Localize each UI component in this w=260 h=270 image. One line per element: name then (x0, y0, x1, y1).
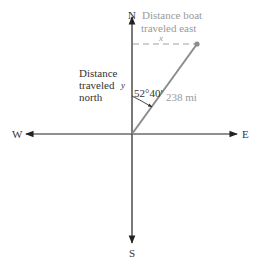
angle-label: 52°40′ (134, 87, 163, 99)
east-label: E (242, 128, 249, 140)
north-distance-label-line1: Distance (79, 67, 118, 79)
east-distance-label-line1: Distance boat (142, 9, 202, 21)
compass-diagram: N S W E Distance boat traveled east x Di… (0, 0, 260, 270)
east-variable-x: x (158, 33, 163, 43)
north-label: N (128, 9, 136, 21)
north-distance-label-line2: traveled (79, 79, 115, 91)
south-label: S (129, 247, 135, 259)
north-variable-y: y (120, 80, 125, 90)
west-label: W (12, 128, 23, 140)
east-distance-label-line2: traveled east (141, 22, 196, 34)
north-distance-label-line3: north (79, 91, 103, 103)
hypotenuse-label: 238 mi (166, 91, 197, 103)
boat-endpoint-dot (194, 41, 199, 46)
